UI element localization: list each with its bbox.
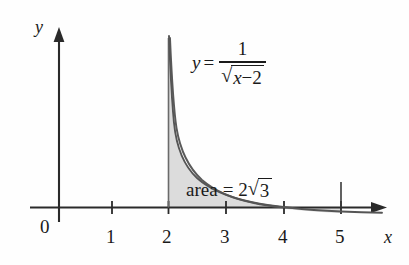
radicand-variable: x: [233, 67, 241, 88]
formula-numerator: 1: [232, 38, 254, 61]
area-equals: =: [223, 179, 234, 201]
x-axis-arrowhead: [371, 202, 387, 213]
area-radicand: 3: [258, 178, 273, 202]
radical-group: √ x−2: [221, 65, 264, 89]
function-formula: y = 1 √ x−2: [192, 38, 266, 89]
x-tick-label-3: 3: [220, 227, 230, 246]
x-axis-label: x: [384, 228, 392, 246]
x-tick-label-2: 2: [162, 227, 172, 246]
x-tick-label-1: 1: [106, 227, 116, 246]
origin-label: 0: [40, 217, 50, 236]
y-axis-label: y: [35, 18, 43, 36]
x-tick-label-4: 4: [278, 227, 288, 246]
formula-fraction: 1 √ x−2: [219, 38, 266, 89]
radicand-operator: −: [242, 67, 253, 88]
figure-canvas: y x 0 1 2 3 4 5 y = 1 √ x−2 area = 2: [0, 0, 409, 265]
radicand-expression: x−2: [231, 65, 264, 89]
area-radical-group: √ 3: [248, 178, 272, 202]
formula-lhs: y: [192, 52, 200, 74]
x-tick-label-5: 5: [335, 227, 345, 246]
area-coefficient: 2: [238, 179, 248, 201]
formula-equals: =: [203, 52, 214, 74]
area-word: area: [186, 179, 218, 201]
radicand-number: 2: [252, 67, 262, 88]
formula-denominator: √ x−2: [219, 63, 266, 89]
area-annotation: area = 2 √ 3: [186, 178, 272, 202]
y-axis-arrowhead: [54, 27, 65, 42]
